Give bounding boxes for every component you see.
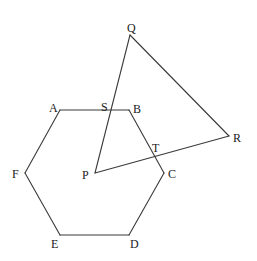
label-P: P — [82, 168, 89, 182]
label-D: D — [130, 237, 139, 251]
label-E: E — [51, 237, 58, 251]
edge-RP — [95, 136, 229, 173]
label-Q: Q — [127, 21, 136, 35]
label-A: A — [49, 101, 58, 115]
edge-FA — [25, 110, 60, 173]
hexagon-ABCDEF — [25, 110, 164, 235]
vertex-labels: Q A S B T R F P C E D — [12, 21, 241, 251]
label-C: C — [168, 167, 176, 181]
label-R: R — [233, 131, 241, 145]
label-B: B — [133, 102, 141, 116]
edge-EF — [25, 173, 60, 235]
label-S: S — [101, 100, 108, 114]
edge-CD — [129, 173, 164, 235]
geometry-diagram: Q A S B T R F P C E D — [0, 0, 257, 261]
edge-QR — [130, 35, 229, 136]
triangle-PQR — [95, 35, 229, 173]
label-T: T — [152, 141, 160, 155]
label-F: F — [12, 167, 19, 181]
